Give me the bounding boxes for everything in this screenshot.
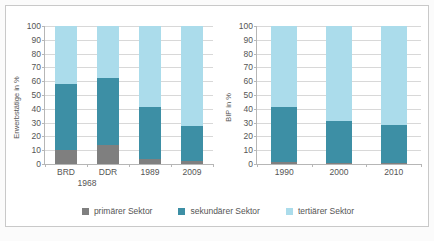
chart-bip: BIP in % 0102030405060708090100 19902000… <box>220 14 428 196</box>
legend-swatch-primaer <box>82 208 89 215</box>
y-axis-tick-label: 80 <box>32 49 41 59</box>
bar-segment <box>326 121 352 162</box>
y-axis-tick-label: 50 <box>32 90 41 100</box>
legend-item: sekundärer Sektor <box>178 206 259 216</box>
bar-segment <box>139 159 161 164</box>
x-axis-tick-label: 1989 <box>141 167 160 177</box>
bar-segment <box>381 125 407 163</box>
y-axis-title-right: BIP in % <box>221 32 235 182</box>
stacked-bar: DDR <box>97 26 119 164</box>
x-axis-tick-label: 2000 <box>330 167 349 177</box>
x-axis-tick-label: 2010 <box>384 167 403 177</box>
chart-panels: Erwerbstätige in % 010203040506070809010… <box>6 6 430 196</box>
bar-segment <box>97 145 119 164</box>
bars-right: 199020002010 <box>257 26 421 164</box>
plot-area-left: 0102030405060708090100 BRDDDR19892009196… <box>44 26 213 165</box>
stacked-bar: 2009 <box>181 26 203 164</box>
bar-segment <box>55 84 77 150</box>
bar-segment <box>55 26 77 84</box>
y-axis-tick-label: 10 <box>244 145 253 155</box>
bar-segment <box>326 26 352 121</box>
stacked-bar: 2000 <box>326 26 352 164</box>
y-axis-tick-label: 0 <box>248 159 253 169</box>
bar-segment <box>181 126 203 161</box>
bar-segment <box>181 26 203 126</box>
legend-swatch-tertiaer <box>286 208 293 215</box>
y-axis-tick-label: 20 <box>244 131 253 141</box>
y-axis-title-right-text: BIP in % <box>224 93 233 122</box>
y-axis-title-left: Erwerbstätige in % <box>9 32 23 182</box>
x-axis-tick-label: 1990 <box>275 167 294 177</box>
bar-segment <box>139 107 161 159</box>
bars-left: BRDDDR198920091968 <box>45 26 213 164</box>
y-axis-tick-label: 50 <box>244 90 253 100</box>
y-axis-tick-label: 90 <box>244 35 253 45</box>
bar-segment <box>271 162 297 164</box>
x-axis-tick-label: DDR <box>99 167 117 177</box>
x-axis-tick <box>312 164 313 167</box>
x-axis-tick <box>129 164 130 167</box>
figure: Erwerbstätige in % 010203040506070809010… <box>0 0 434 241</box>
stacked-bar: 1990 <box>271 26 297 164</box>
y-axis-tick-label: 0 <box>36 159 41 169</box>
legend-item: primärer Sektor <box>82 206 153 216</box>
y-axis-tick-label: 60 <box>244 76 253 86</box>
stacked-bar: 1989 <box>139 26 161 164</box>
chart-frame: Erwerbstätige in % 010203040506070809010… <box>5 5 429 227</box>
x-axis-group-label: 1968 <box>78 178 97 188</box>
x-axis-tick-label: BRD <box>57 167 75 177</box>
x-axis-tick <box>45 164 46 167</box>
legend-label: tertiärer Sektor <box>298 206 354 216</box>
bar-segment <box>97 26 119 78</box>
plot-area-right: 0102030405060708090100 199020002010 <box>256 26 421 165</box>
legend-swatch-sekundaer <box>178 208 185 215</box>
bar-segment <box>55 150 77 164</box>
x-axis-tick <box>171 164 172 167</box>
bar-segment <box>97 78 119 146</box>
legend-label: sekundärer Sektor <box>190 206 259 216</box>
chart-erwerbstaetige: Erwerbstätige in % 010203040506070809010… <box>8 14 220 196</box>
x-axis-tick <box>87 164 88 167</box>
y-axis-tick-label: 90 <box>32 35 41 45</box>
y-axis-tick-label: 60 <box>32 76 41 86</box>
legend-item: tertiärer Sektor <box>286 206 354 216</box>
stacked-bar: BRD <box>55 26 77 164</box>
y-axis-tick-label: 100 <box>239 21 253 31</box>
y-axis-title-left-text: Erwerbstätige in % <box>12 76 21 139</box>
x-axis-tick-label: 2009 <box>183 167 202 177</box>
y-axis-tick-label: 20 <box>32 131 41 141</box>
y-axis-tick-label: 100 <box>27 21 41 31</box>
bar-segment <box>139 26 161 107</box>
y-axis-tick-label: 40 <box>32 104 41 114</box>
bar-segment <box>181 161 203 164</box>
y-axis-tick-label: 70 <box>244 62 253 72</box>
legend-label: primärer Sektor <box>94 206 153 216</box>
bar-segment <box>381 163 407 164</box>
x-axis-tick <box>421 164 422 167</box>
x-axis-tick <box>257 164 258 167</box>
bar-segment <box>326 163 352 164</box>
x-axis-tick <box>213 164 214 167</box>
bar-segment <box>271 107 297 162</box>
bar-segment <box>381 26 407 125</box>
x-axis-tick <box>366 164 367 167</box>
stacked-bar: 2010 <box>381 26 407 164</box>
y-axis-tick-label: 40 <box>244 104 253 114</box>
y-axis-tick-label: 30 <box>244 118 253 128</box>
legend: primärer Sektorsekundärer Sektortertiäre… <box>6 203 430 219</box>
y-axis-tick-label: 80 <box>244 49 253 59</box>
y-axis-tick-label: 10 <box>32 145 41 155</box>
bar-segment <box>271 26 297 107</box>
y-axis-tick-label: 70 <box>32 62 41 72</box>
y-axis-tick-label: 30 <box>32 118 41 128</box>
